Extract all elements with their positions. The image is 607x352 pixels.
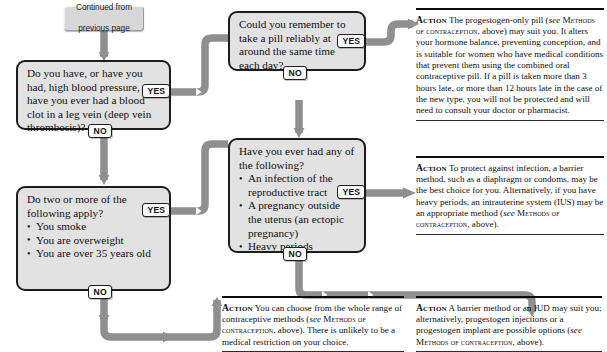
pill-no-pill-reliability: NO: [283, 66, 307, 80]
cross-reference: Methods of contraception: [416, 337, 512, 347]
start-line-1: Continued from: [76, 3, 132, 14]
arrowhead-q3-no: [294, 128, 305, 138]
rule-bottom: [416, 120, 604, 121]
action-block-whole-range: Action You can choose from the whole ran…: [222, 296, 404, 352]
action-text-whole-range: Action You can choose from the whole ran…: [222, 302, 404, 348]
pill-label: NO: [289, 249, 302, 259]
question-box-risk-factors: Do two or more of the following apply? Y…: [16, 186, 171, 291]
wire-q3-yes: [366, 24, 413, 42]
question-lead-history: Have you ever had any of the following?: [239, 145, 356, 172]
pill-no-history: NO: [283, 247, 307, 261]
bullet-item: A pregnancy outside the uterus (an ectop…: [239, 199, 356, 240]
action-text-barrier-iud: Action A barrier method or an IUD may su…: [416, 302, 602, 348]
arrowhead-q2-no-up: [212, 297, 223, 306]
action-label: Action: [416, 14, 447, 25]
pill-yes-blood-pressure: YES: [142, 84, 170, 98]
rule-top: [222, 296, 404, 298]
pill-label: YES: [343, 187, 361, 197]
pill-label: NO: [94, 287, 107, 297]
action-block-barrier-infection: Action To protect against infection, a b…: [416, 156, 604, 235]
action-label: Action: [416, 302, 447, 313]
pill-no-risk-factors: NO: [88, 285, 112, 299]
arrowhead-q2-no-right: [163, 332, 173, 343]
bullet-item: You are over 35 years old: [27, 247, 161, 261]
bullet-item: You are overweight: [27, 234, 161, 248]
pill-yes-pill-reliability: YES: [337, 34, 365, 48]
rule-top: [416, 296, 602, 298]
rule-bottom: [416, 234, 604, 235]
action-sentence-a: The progestogen-only pill (: [447, 15, 549, 25]
pill-label: NO: [94, 126, 107, 136]
see-reference: see: [549, 15, 561, 25]
question-bullets-risk-factors: You smoke You are overweight You are ove…: [27, 220, 161, 261]
action-text-progestogen-pill: Action The progestogen-only pill (see Me…: [416, 14, 604, 117]
wire-q1-yes: [171, 38, 228, 92]
wire-q2-yes: [171, 144, 228, 211]
action-sentence-b: , above).: [512, 337, 544, 347]
pill-yes-history: YES: [337, 185, 365, 199]
pill-label: YES: [343, 36, 361, 46]
arrowhead-q4-yes: [403, 188, 416, 199]
pill-no-blood-pressure: NO: [88, 124, 112, 138]
see-reference: see: [309, 314, 321, 324]
arrowhead-q1-no: [99, 175, 110, 185]
pill-label: YES: [148, 205, 166, 215]
see-reference: see: [503, 208, 515, 218]
start-node-continued: Continued from previous page: [64, 6, 144, 31]
start-line-2: previous page: [76, 24, 132, 35]
rule-top: [416, 8, 604, 10]
action-text-barrier-infection: Action To protect against infection, a b…: [416, 162, 604, 231]
action-label: Action: [222, 302, 253, 313]
pill-label: YES: [148, 86, 166, 96]
action-sentence-b: , above).: [467, 219, 499, 229]
bullet-item: You smoke: [27, 220, 161, 234]
wire-q2-no: [104, 291, 217, 337]
action-label: Action: [416, 162, 447, 173]
action-block-progestogen-pill: Action The progestogen-only pill (see Me…: [416, 8, 604, 121]
see-reference: see: [570, 325, 582, 335]
pill-yes-risk-factors: YES: [142, 203, 170, 217]
rule-top: [416, 156, 604, 158]
pill-label: NO: [289, 68, 302, 78]
action-block-barrier-iud: Action A barrier method or an IUD may su…: [416, 296, 602, 352]
question-lead-risk-factors: Do two or more of the following apply?: [27, 193, 161, 220]
arrowhead-q2-no-down: [99, 315, 110, 325]
action-sentence-b: , above) may suit you. It alters your ho…: [416, 26, 603, 115]
